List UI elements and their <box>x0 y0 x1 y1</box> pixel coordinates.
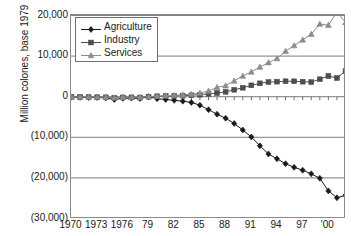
data-point-square <box>240 85 245 90</box>
legend-marker-diamond-icon <box>80 21 102 32</box>
legend-item-industry[interactable]: Industry <box>80 33 152 46</box>
x-axis-tick-labels: 19701973197679828588919497'00 <box>70 219 345 235</box>
data-point-triangle <box>266 60 272 65</box>
data-point-diamond <box>300 167 305 173</box>
legend-marker-square-icon <box>80 34 102 45</box>
data-point-square <box>89 40 94 45</box>
x-tick-label: 82 <box>168 219 179 230</box>
data-point-square <box>249 83 254 88</box>
legend-item-services[interactable]: Services <box>80 46 152 59</box>
chart-container: Million colones, base 1979 20,00010,0000… <box>0 0 351 236</box>
data-point-triangle <box>300 37 306 42</box>
data-point-triangle <box>231 78 237 83</box>
x-tick-label: 79 <box>142 219 153 230</box>
legend-marker-triangle-icon <box>80 47 102 58</box>
legend-item-agriculture[interactable]: Agriculture <box>80 20 152 33</box>
data-point-square <box>275 79 280 84</box>
data-point-square <box>257 81 262 86</box>
data-point-square <box>292 79 297 84</box>
x-tick-label: 91 <box>245 219 256 230</box>
data-point-triangle <box>283 48 289 53</box>
data-point-square <box>232 87 237 92</box>
chart-legend: AgricultureIndustryServices <box>75 17 158 62</box>
x-tick-label: 94 <box>270 219 281 230</box>
data-point-diamond <box>88 27 93 33</box>
data-point-square <box>326 74 331 79</box>
data-point-diamond <box>232 120 237 126</box>
data-point-diamond <box>274 156 279 162</box>
y-tick-label: 10,000 <box>22 50 68 60</box>
y-tick-label: 20,000 <box>22 10 68 20</box>
data-point-triangle <box>257 64 263 69</box>
data-point-square <box>309 80 314 85</box>
x-tick-label: 85 <box>193 219 204 230</box>
data-point-diamond <box>180 98 185 104</box>
y-tick-label: (10,000) <box>22 131 68 141</box>
data-point-diamond <box>214 111 219 117</box>
data-point-diamond <box>206 107 211 113</box>
y-axis-tick-labels: 20,00010,0000(10,000)(20,000)(30,000) <box>16 0 68 236</box>
data-point-triangle <box>223 83 229 88</box>
data-point-triangle <box>248 69 254 74</box>
data-point-diamond <box>197 102 202 108</box>
series-agriculture <box>71 94 345 201</box>
data-point-diamond <box>343 192 345 198</box>
x-tick-label: 97 <box>296 219 307 230</box>
data-point-square <box>317 77 322 82</box>
data-point-square <box>300 79 305 84</box>
x-tick-label: 1976 <box>111 219 133 230</box>
legend-label: Agriculture <box>102 21 152 32</box>
legend-label: Services <box>102 47 142 58</box>
legend-label: Industry <box>102 34 140 45</box>
x-tick-label: 1973 <box>85 219 107 230</box>
data-point-diamond <box>292 164 297 170</box>
data-point-square <box>335 76 340 81</box>
series-industry <box>71 69 345 101</box>
x-tick-label: 1970 <box>59 219 81 230</box>
y-tick-label: (20,000) <box>22 172 68 182</box>
data-point-diamond <box>189 99 194 105</box>
x-tick-label: 88 <box>219 219 230 230</box>
data-point-square <box>283 79 288 84</box>
data-point-triangle <box>317 21 323 26</box>
data-point-diamond <box>309 171 314 177</box>
x-tick-label: '00 <box>321 219 334 230</box>
y-tick-label: 0 <box>22 91 68 101</box>
data-point-diamond <box>223 115 228 121</box>
data-point-square <box>223 89 228 94</box>
data-point-square <box>343 69 345 74</box>
data-point-square <box>215 91 220 96</box>
data-point-diamond <box>283 161 288 167</box>
data-point-triangle <box>240 73 246 78</box>
data-point-square <box>266 80 271 85</box>
data-point-triangle <box>291 43 297 48</box>
